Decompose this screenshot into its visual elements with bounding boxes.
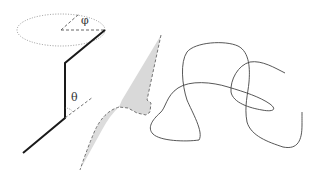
lower-dashed-outline xyxy=(80,107,119,170)
theta-arc xyxy=(65,108,73,112)
theta-label: θ xyxy=(71,92,78,103)
phi-label: φ xyxy=(81,15,89,26)
diagram-canvas xyxy=(0,0,319,177)
bond-chain xyxy=(23,30,105,153)
random-coil-curve xyxy=(150,43,302,148)
swept-surface xyxy=(80,35,161,170)
bond-angle-schematic xyxy=(17,14,105,153)
theta-reference-line xyxy=(65,97,93,118)
phi-rotated-line xyxy=(61,14,79,30)
upper-shaded-region xyxy=(119,35,161,115)
lower-shaded-region xyxy=(80,107,119,170)
